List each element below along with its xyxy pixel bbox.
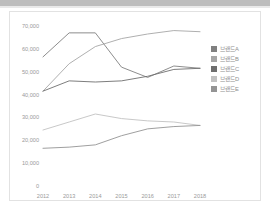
legend-item[interactable]: 브랜드E xyxy=(211,85,261,93)
series-lines xyxy=(43,31,200,149)
y-axis-tick-labels: 70,00060,00050,00040,00030,00020,00010,0… xyxy=(22,23,39,189)
legend-swatch-brand-c xyxy=(211,66,217,72)
y-axis-tick-label: 10,000 xyxy=(22,160,39,166)
series-line[interactable] xyxy=(43,33,200,78)
chart-legend: 브랜드A브랜드B브랜드C브랜드D브랜드E xyxy=(211,45,261,93)
legend-item[interactable]: 브랜드D xyxy=(211,75,261,83)
line-chart-plot[interactable]: 70,00060,00050,00040,00030,00020,00010,0… xyxy=(10,12,262,202)
series-line[interactable] xyxy=(43,68,200,91)
y-axis-tick-label: 20,000 xyxy=(22,137,39,143)
x-axis-tick-label: 2017 xyxy=(168,193,180,199)
x-axis-tick-label: 2012 xyxy=(37,193,49,199)
legend-item-label: 브랜드C xyxy=(220,65,239,73)
window-top-strip-shadow xyxy=(0,6,270,8)
legend-item-label: 브랜드A xyxy=(220,45,239,53)
x-axis-tick-label: 2015 xyxy=(115,193,127,199)
x-axis-tick-label: 2014 xyxy=(89,193,101,199)
legend-item-label: 브랜드E xyxy=(220,85,239,93)
legend-swatch-brand-a xyxy=(211,46,217,52)
y-axis-tick-label: 40,000 xyxy=(22,92,39,98)
x-axis-tick-labels: 2012201320142015201620172018 xyxy=(37,193,206,199)
series-line[interactable] xyxy=(43,125,200,148)
series-line[interactable] xyxy=(43,114,200,130)
legend-item[interactable]: 브랜드A xyxy=(211,45,261,53)
y-axis-tick-label: 0 xyxy=(36,183,39,189)
x-axis-tick-label: 2013 xyxy=(63,193,75,199)
y-axis-tick-label: 70,000 xyxy=(22,23,39,29)
screenshot-root: 70,00060,00050,00040,00030,00020,00010,0… xyxy=(0,0,270,212)
y-axis-tick-label: 60,000 xyxy=(22,46,39,52)
chart-panel[interactable]: 70,00060,00050,00040,00030,00020,00010,0… xyxy=(9,11,261,201)
legend-swatch-brand-d xyxy=(211,76,217,82)
legend-item[interactable]: 브랜드B xyxy=(211,55,261,63)
legend-swatch-brand-e xyxy=(211,86,217,92)
x-axis-tick-label: 2016 xyxy=(141,193,153,199)
legend-item[interactable]: 브랜드C xyxy=(211,65,261,73)
legend-item-label: 브랜드B xyxy=(220,55,239,63)
y-axis-tick-label: 50,000 xyxy=(22,69,39,75)
legend-swatch-brand-b xyxy=(211,56,217,62)
legend-item-label: 브랜드D xyxy=(220,75,239,83)
y-axis-tick-label: 30,000 xyxy=(22,114,39,120)
x-axis-tick-label: 2018 xyxy=(194,193,206,199)
